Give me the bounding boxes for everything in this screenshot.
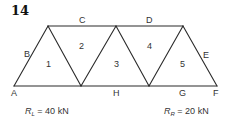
reaction-right-value: = 20 kN: [177, 106, 208, 116]
reaction-left-subscript: L: [32, 111, 35, 117]
member-diagonal-4: [149, 26, 183, 86]
reaction-left-value: = 40 kN: [37, 106, 68, 116]
label-c: C: [79, 16, 86, 25]
member-diagonal-1: [48, 26, 81, 86]
member-left-end: [14, 26, 48, 86]
panel-number-4: 4: [147, 42, 152, 51]
panel-number-5: 5: [180, 60, 185, 69]
member-right-end: [183, 26, 217, 86]
member-diagonal-2: [81, 26, 116, 86]
label-d: D: [146, 16, 153, 25]
reaction-left: RL = 40 kN: [25, 107, 69, 117]
label-f: F: [213, 89, 219, 98]
label-e: E: [203, 51, 209, 60]
panel-number-3: 3: [114, 60, 119, 69]
member-diagonal-3: [116, 26, 149, 86]
label-h: H: [113, 89, 120, 98]
label-b: B: [24, 50, 30, 59]
label-g: G: [179, 89, 186, 98]
reaction-right-subscript: R: [171, 111, 175, 117]
reaction-right: RR = 20 kN: [164, 107, 209, 117]
panel-number-2: 2: [79, 42, 84, 51]
label-a: A: [11, 89, 17, 98]
panel-number-1: 1: [46, 60, 51, 69]
